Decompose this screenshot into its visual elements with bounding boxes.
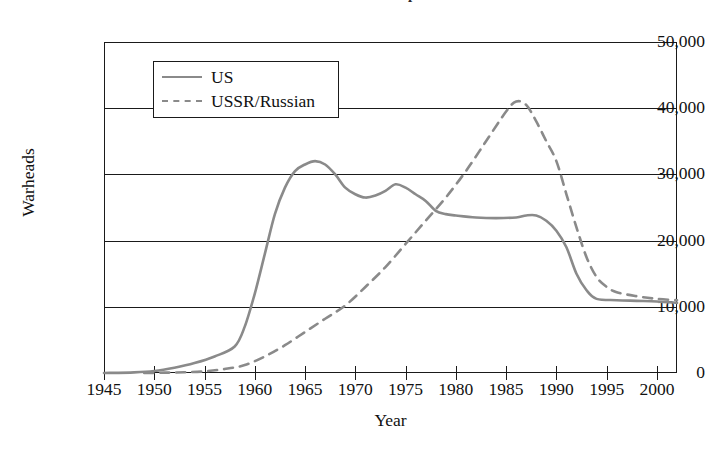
x-tick-mark-1945 (104, 366, 105, 380)
legend-entry-ussr-russian: USSR/Russian (162, 89, 315, 113)
x-tick-mark-1950 (154, 366, 155, 380)
y-tick-label-40000: 40,000 (613, 99, 705, 117)
y-tick-label-20000: 20,000 (613, 232, 705, 250)
y-tick-label-10000: 10,000 (613, 298, 705, 316)
x-tick-mark-1980 (456, 366, 457, 380)
legend-label-ussr-russian: USSR/Russian (211, 92, 315, 110)
x-tick-mark-1965 (305, 366, 306, 380)
legend-entry-us: US (162, 65, 233, 89)
legend-swatch-dashed-icon (162, 100, 202, 102)
x-tick-mark-1970 (355, 366, 356, 380)
gridline-30000 (104, 174, 677, 175)
y-tick-mark-0 (104, 373, 113, 374)
x-tick-mark-1955 (205, 366, 206, 380)
x-axis-title: Year (104, 410, 677, 431)
legend-label-us: US (211, 68, 233, 86)
y-tick-label-30000: 30,000 (613, 165, 705, 183)
gridline-10000 (104, 307, 677, 308)
legend-swatch-solid-icon (162, 76, 202, 78)
y-tick-mark-10000 (104, 307, 113, 308)
chart-title: Global Nuclear Stockpiles (0, 0, 705, 3)
x-tick-label-2000: 2000 (627, 379, 687, 399)
nuclear-stockpile-line-chart: Global Nuclear Stockpiles 010,00020,0003… (0, 0, 705, 452)
y-tick-mark-40000 (104, 108, 113, 109)
y-axis-title: Warheads (18, 113, 39, 253)
gridline-50000 (104, 42, 677, 43)
x-tick-mark-1990 (556, 366, 557, 380)
chart-legend: US USSR/Russian (153, 61, 339, 118)
y-tick-label-50000: 50,000 (613, 33, 705, 51)
x-tick-mark-2000 (657, 366, 658, 380)
y-tick-mark-20000 (104, 241, 113, 242)
y-tick-mark-50000 (104, 42, 113, 43)
y-tick-mark-30000 (104, 174, 113, 175)
x-tick-mark-1995 (607, 366, 608, 380)
x-tick-mark-1975 (406, 366, 407, 380)
x-tick-mark-1985 (506, 366, 507, 380)
x-tick-mark-1960 (255, 366, 256, 380)
gridline-20000 (104, 241, 677, 242)
